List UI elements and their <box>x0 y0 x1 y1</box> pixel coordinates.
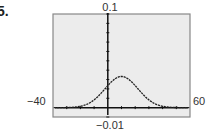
graph-window <box>0 0 208 133</box>
graph-frame <box>53 14 190 117</box>
